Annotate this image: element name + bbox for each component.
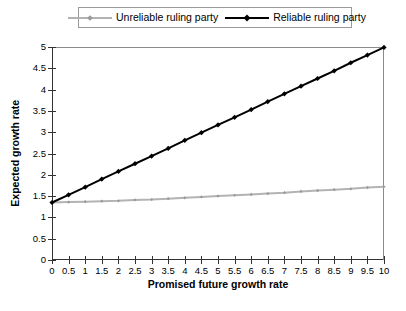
y-tick-label: 3 xyxy=(41,127,46,137)
y-tick xyxy=(48,196,56,197)
y-tick xyxy=(48,239,56,240)
data-point xyxy=(216,195,219,198)
legend-entry-reliable: Reliable ruling party xyxy=(221,12,366,23)
x-tick-label: 6.5 xyxy=(261,266,274,276)
x-tick-label: 3.5 xyxy=(162,266,175,276)
y-tick-label: 5 xyxy=(41,42,46,52)
x-tick-label: 10 xyxy=(379,266,390,276)
y-tick xyxy=(48,154,56,155)
chart-legend: Unreliable ruling party Reliable ruling … xyxy=(78,7,352,28)
legend-line-reliable-icon xyxy=(225,13,269,22)
legend-line-unreliable-icon xyxy=(68,13,112,22)
series-unreliable xyxy=(50,185,385,204)
data-point xyxy=(133,198,136,201)
data-point xyxy=(150,198,153,201)
y-tick xyxy=(48,47,56,48)
x-tick xyxy=(85,256,86,264)
chart-figure: Unreliable ruling party Reliable ruling … xyxy=(0,0,406,311)
data-point xyxy=(183,196,186,199)
x-tick-label: 0.5 xyxy=(62,266,75,276)
series-reliable xyxy=(49,45,386,205)
x-tick-label: 7 xyxy=(282,266,287,276)
data-point xyxy=(200,195,203,198)
x-tick xyxy=(251,256,252,264)
x-tick xyxy=(201,256,202,264)
data-point xyxy=(299,190,302,193)
y-tick xyxy=(48,132,56,133)
y-tick xyxy=(48,90,56,91)
series-lines xyxy=(52,47,384,260)
x-tick-label: 6 xyxy=(249,266,254,276)
data-point xyxy=(283,191,286,194)
y-tick-label: 2.5 xyxy=(33,149,46,159)
legend-label-reliable: Reliable ruling party xyxy=(273,12,366,23)
x-tick-label: 7.5 xyxy=(294,266,307,276)
data-point xyxy=(250,193,253,196)
x-tick xyxy=(185,256,186,264)
legend-entry-unreliable: Unreliable ruling party xyxy=(64,12,218,23)
x-tick xyxy=(218,256,219,264)
y-tick-label: 2 xyxy=(41,170,46,180)
x-axis-title: Promised future growth rate xyxy=(52,279,384,290)
x-tick xyxy=(334,256,335,264)
y-tick-label: 1.5 xyxy=(33,191,46,201)
x-tick-label: 3 xyxy=(149,266,154,276)
x-tick xyxy=(351,256,352,264)
x-tick-label: 2 xyxy=(116,266,121,276)
x-tick-label: 9.5 xyxy=(361,266,374,276)
plot-area: 00.511.522.533.544.5500.511.522.533.544.… xyxy=(52,47,384,260)
x-tick-label: 2.5 xyxy=(128,266,141,276)
x-tick-label: 0 xyxy=(49,266,54,276)
data-point xyxy=(117,199,120,202)
y-tick-label: 4.5 xyxy=(33,64,46,74)
data-point xyxy=(382,185,385,188)
y-tick-label: 0 xyxy=(41,255,46,265)
x-tick xyxy=(384,256,385,264)
y-tick-label: 0.5 xyxy=(33,234,46,244)
x-tick xyxy=(235,256,236,264)
data-point xyxy=(100,200,103,203)
data-point xyxy=(366,186,369,189)
data-point xyxy=(266,192,269,195)
x-tick xyxy=(135,256,136,264)
x-tick-label: 1.5 xyxy=(95,266,108,276)
x-tick xyxy=(268,256,269,264)
y-tick xyxy=(48,111,56,112)
x-tick xyxy=(168,256,169,264)
y-tick-label: 4 xyxy=(41,85,46,95)
data-point xyxy=(316,189,319,192)
y-tick-label: 3.5 xyxy=(33,106,46,116)
x-tick xyxy=(318,256,319,264)
y-tick xyxy=(48,175,56,176)
x-tick-label: 1 xyxy=(83,266,88,276)
x-tick xyxy=(102,256,103,264)
x-tick-label: 5.5 xyxy=(228,266,241,276)
x-tick-label: 4.5 xyxy=(195,266,208,276)
legend-label-unreliable: Unreliable ruling party xyxy=(116,12,218,23)
x-tick xyxy=(301,256,302,264)
x-tick xyxy=(284,256,285,264)
y-tick-label: 1 xyxy=(41,213,46,223)
x-tick xyxy=(152,256,153,264)
data-point xyxy=(333,188,336,191)
data-point xyxy=(84,200,87,203)
data-point xyxy=(349,187,352,190)
x-tick-label: 8.5 xyxy=(328,266,341,276)
y-axis-title: Expected growth rate xyxy=(8,47,22,260)
data-point xyxy=(167,197,170,200)
data-point xyxy=(233,194,236,197)
x-tick-label: 9 xyxy=(348,266,353,276)
y-tick xyxy=(48,68,56,69)
x-tick xyxy=(69,256,70,264)
data-point xyxy=(67,200,70,203)
x-tick xyxy=(118,256,119,264)
x-tick-label: 4 xyxy=(182,266,187,276)
x-tick-label: 8 xyxy=(315,266,320,276)
y-tick xyxy=(48,217,56,218)
x-tick xyxy=(367,256,368,264)
x-tick xyxy=(52,256,53,264)
x-tick-label: 5 xyxy=(215,266,220,276)
